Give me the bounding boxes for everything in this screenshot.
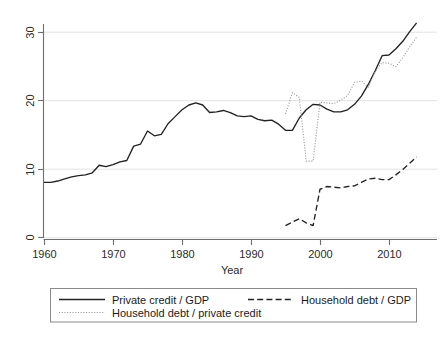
x-axis-tick-labels: 196019701980199020002010: [32, 248, 401, 260]
series-line-1: [286, 157, 417, 225]
legend-label-2: Household debt / private credit: [112, 307, 261, 319]
line-chart: 196019701980199020002010 0102030 Year Pr…: [0, 0, 446, 339]
x-tick-label-1960: 1960: [32, 248, 56, 260]
y-tick-label-10: 10: [24, 163, 36, 175]
data-series-group: [44, 23, 417, 226]
legend-label-1: Household debt / GDP: [301, 294, 411, 306]
y-tick-label-20: 20: [24, 94, 36, 106]
x-axis-title: Year: [221, 264, 244, 276]
y-tick-label-30: 30: [24, 26, 36, 38]
x-axis-ticks: [45, 240, 390, 245]
y-axis-tick-labels: 0102030: [24, 26, 36, 240]
series-line-0: [44, 23, 417, 183]
x-tick-label-2000: 2000: [308, 248, 332, 260]
x-tick-label-1970: 1970: [101, 248, 125, 260]
x-tick-label-2010: 2010: [377, 248, 401, 260]
y-tick-label-0: 0: [24, 234, 36, 240]
x-tick-label-1990: 1990: [239, 248, 263, 260]
legend-entries: Private credit / GDPHousehold debt / GDP…: [59, 294, 411, 319]
chart-figure: 196019701980199020002010 0102030 Year Pr…: [0, 0, 446, 339]
legend-label-0: Private credit / GDP: [112, 294, 209, 306]
x-tick-label-1980: 1980: [170, 248, 194, 260]
series-line-2: [286, 37, 417, 161]
y-axis-ticks: [38, 33, 43, 238]
